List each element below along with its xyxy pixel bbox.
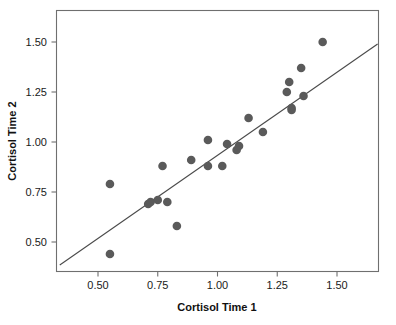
scatter-plot-figure: 0.500.751.001.251.50 0.500.751.001.251.5… bbox=[0, 0, 396, 325]
y-axis-label: Cortisol Time 2 bbox=[6, 101, 18, 180]
x-tick-label: 1.25 bbox=[267, 279, 288, 291]
data-point bbox=[173, 222, 182, 231]
data-point bbox=[158, 162, 167, 171]
x-axis-ticks: 0.500.751.001.251.50 bbox=[87, 272, 347, 292]
data-point bbox=[235, 142, 244, 151]
y-tick-label: 1.00 bbox=[26, 136, 47, 148]
y-tick-label: 1.25 bbox=[26, 86, 47, 98]
data-point bbox=[218, 162, 227, 171]
x-tick-label: 1.00 bbox=[207, 279, 228, 291]
data-points bbox=[106, 38, 327, 259]
data-point bbox=[106, 180, 115, 189]
data-point bbox=[259, 128, 268, 137]
data-point bbox=[163, 198, 172, 207]
fit-line-segment bbox=[60, 44, 378, 265]
data-point bbox=[287, 106, 296, 115]
y-tick-label: 0.50 bbox=[26, 236, 47, 248]
data-point bbox=[283, 88, 292, 97]
data-point bbox=[153, 196, 162, 205]
y-tick-label: 1.50 bbox=[26, 36, 47, 48]
data-point bbox=[187, 156, 196, 165]
plot-canvas: 0.500.751.001.251.50 0.500.751.001.251.5… bbox=[0, 0, 396, 325]
x-tick-label: 0.75 bbox=[147, 279, 168, 291]
data-point bbox=[204, 162, 213, 171]
data-point bbox=[244, 114, 253, 123]
x-axis-label: Cortisol Time 1 bbox=[177, 301, 256, 313]
data-point bbox=[204, 136, 213, 145]
regression-line bbox=[60, 44, 378, 265]
data-point bbox=[318, 38, 327, 47]
y-axis-ticks: 0.500.751.001.251.50 bbox=[26, 36, 57, 248]
data-point bbox=[106, 250, 115, 259]
data-point bbox=[285, 78, 294, 87]
y-tick-label: 0.75 bbox=[26, 186, 47, 198]
data-point bbox=[223, 140, 232, 149]
plot-frame bbox=[57, 11, 379, 272]
x-tick-label: 0.50 bbox=[87, 279, 108, 291]
x-tick-label: 1.50 bbox=[326, 279, 347, 291]
data-point bbox=[297, 64, 306, 73]
data-point bbox=[299, 92, 308, 101]
